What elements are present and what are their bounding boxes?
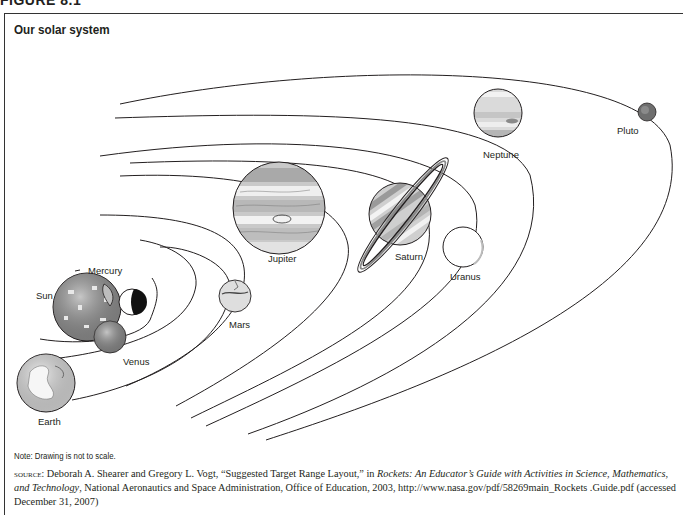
scale-note: Note: Drawing is not to scale. [14,451,116,461]
source-authors: Deborah A. Shearer and Gregory L. Vogt, … [44,468,377,479]
solar-system-diagram: Sun Mercury Venus Earth Mars Jupiter Sat… [0,0,683,515]
label-mercury: Mercury [88,265,123,276]
venus [94,321,126,353]
source-citation: source: Deborah A. Shearer and Gregory L… [14,467,679,509]
jupiter [230,162,330,256]
label-uranus: Uranus [450,271,481,282]
label-neptune: Neptune [483,149,519,160]
label-jupiter: Jupiter [268,253,297,264]
source-rest: , National Aeronautics and Space Adminis… [14,482,676,507]
label-pluto: Pluto [617,125,639,136]
orbit-lines [40,75,672,440]
label-earth: Earth [38,416,61,427]
mars [219,280,251,312]
label-mars: Mars [229,319,250,330]
earth [17,354,75,412]
label-sun: Sun [36,290,53,301]
pluto [638,103,656,121]
mercury [119,289,147,315]
label-venus: Venus [123,356,150,367]
source-prefix: source: [14,469,44,479]
neptune [470,89,530,140]
label-saturn: Saturn [395,251,423,262]
uranus [443,227,483,267]
